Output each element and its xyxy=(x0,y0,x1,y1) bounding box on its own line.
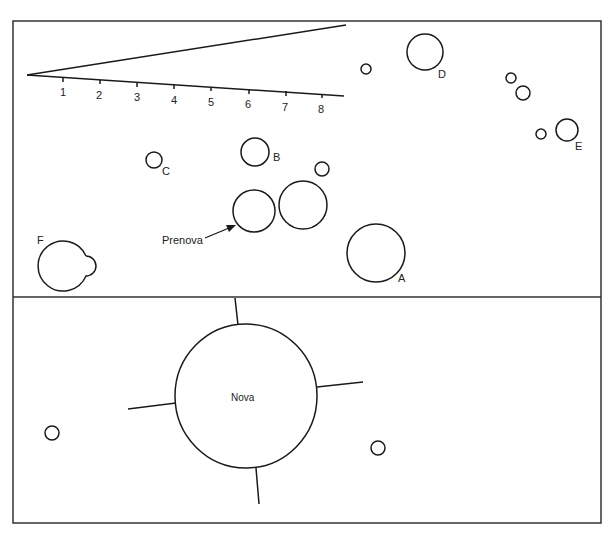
scale-tick-7: 7 xyxy=(282,101,288,113)
star-small xyxy=(516,86,530,100)
star-a xyxy=(347,224,405,282)
star-b xyxy=(241,138,269,166)
star-small xyxy=(536,129,546,139)
star-label-d: D xyxy=(438,68,446,80)
star-small xyxy=(361,64,371,74)
star-f xyxy=(38,241,96,291)
nova-ray-right xyxy=(317,382,363,387)
star-small xyxy=(45,426,59,440)
star-small xyxy=(315,162,329,176)
star-e xyxy=(556,119,578,141)
star-small xyxy=(506,73,516,83)
prenova-pointer xyxy=(205,225,236,238)
star-label-b: B xyxy=(273,151,280,163)
scale-tick-2: 2 xyxy=(96,89,102,101)
star-c xyxy=(146,152,162,168)
nova-ray-top xyxy=(235,298,238,325)
star-label-f: F xyxy=(37,234,44,246)
scale-tick-4: 4 xyxy=(171,94,177,106)
star-label-c: C xyxy=(162,165,170,177)
nova-ray-left xyxy=(128,403,176,409)
scale-tick-8: 8 xyxy=(318,103,324,115)
nova-label: Nova xyxy=(231,392,255,403)
scale-tick-6: 6 xyxy=(245,98,251,110)
distance-scale xyxy=(27,25,346,98)
star-d xyxy=(407,34,443,70)
star-label-a: A xyxy=(398,272,406,284)
prenova-label: Prenova xyxy=(162,234,204,246)
scale-tick-1: 1 xyxy=(60,86,66,98)
diagram-canvas: 1 2 3 4 5 6 7 8 D E C B A F Prenova xyxy=(0,0,616,538)
star-large xyxy=(279,181,327,229)
scale-tick-5: 5 xyxy=(208,96,214,108)
prenova-star xyxy=(233,190,275,232)
nova-ray-bottom xyxy=(256,468,259,504)
star-label-e: E xyxy=(575,140,582,152)
scale-tick-3: 3 xyxy=(134,91,140,103)
star-small xyxy=(371,441,385,455)
